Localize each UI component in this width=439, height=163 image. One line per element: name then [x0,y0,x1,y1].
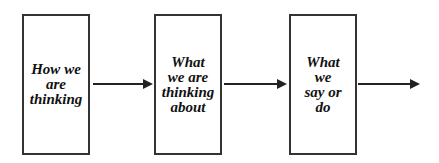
arrow-3 [358,83,418,85]
box-how-we-are-thinking: How we are thinking [22,14,90,155]
box-label: How we are thinking [30,62,83,107]
box-what-we-say-or-do: What we say or do [289,14,357,155]
box-what-we-are-thinking-about: What we are thinking about [154,14,222,155]
arrow-1 [93,83,151,85]
box-label: What we say or do [304,55,341,115]
box-label: What we are thinking about [162,55,215,115]
arrow-2 [224,83,285,85]
